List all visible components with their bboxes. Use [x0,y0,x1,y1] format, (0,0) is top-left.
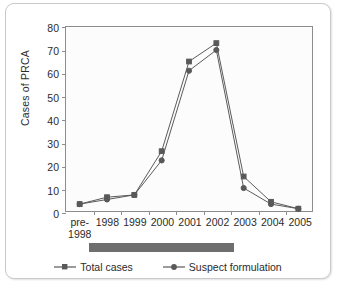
series-line [80,50,299,209]
x-tick-mark [204,211,205,215]
y-tick-20: 20 [37,158,66,176]
y-tick-label: 60 [37,68,59,80]
figure-card: Cases of PRCA 01020304050607080 pre- 199… [5,3,331,279]
data-point [186,68,191,73]
x-tick-mark [149,211,150,215]
data-point [214,47,219,52]
legend-label: Suspect formulation [189,261,282,273]
data-point [241,185,246,190]
legend-item-1[interactable]: Total cases [54,261,133,273]
y-tick-70: 70 [37,41,66,59]
y-tick-mark [62,213,66,214]
y-tick-60: 60 [37,65,66,83]
data-point [214,41,219,46]
x-tick-mark [176,211,177,215]
y-tick-30: 30 [37,134,66,152]
x-tick-mark [231,211,232,215]
data-point [77,202,82,207]
y-tick-80: 80 [37,18,66,36]
data-point [104,197,109,202]
chart-data-layer [66,27,312,211]
y-tick-label: 50 [37,92,59,104]
data-point [159,149,164,154]
y-tick-label: 40 [37,115,59,127]
x-tick-mark [121,211,122,215]
x-tick-mark [259,211,260,215]
series-2 [77,47,301,211]
data-point [296,206,301,211]
plot-area: 01020304050607080 pre- 19981998199920002… [65,26,313,212]
y-tick-label: 10 [37,185,59,197]
data-point [268,202,273,207]
y-tick-40: 40 [37,111,66,129]
data-point [159,158,164,163]
legend-item-2[interactable]: Suspect formulation [163,261,282,273]
chart-legend: Total casesSuspect formulation [6,261,330,273]
y-tick-10: 10 [37,181,66,199]
y-tick-label: 20 [37,161,59,173]
x-tick-mark [286,211,287,215]
y-tick-label: 80 [37,22,59,34]
data-point [132,192,137,197]
period-bar-annotation [89,243,234,252]
legend-circle-marker-icon [163,262,185,272]
y-axis-title: Cases of PRCA [19,33,31,143]
y-tick-0: 0 [37,204,66,222]
y-tick-label: 30 [37,138,59,150]
data-point [187,59,192,64]
legend-square-marker-icon [54,262,76,272]
x-tick-label: 2005 [283,217,317,229]
series-1 [77,41,300,211]
y-tick-50: 50 [37,88,66,106]
x-tick-mark [94,211,95,215]
legend-label: Total cases [80,261,133,273]
y-tick-label: 0 [37,208,59,220]
y-tick-label: 70 [37,45,59,57]
